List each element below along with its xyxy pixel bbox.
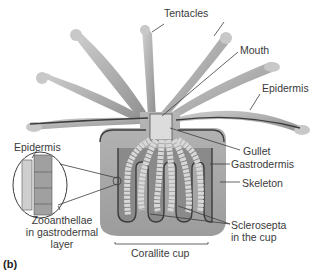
label-epidermis-right: Epidermis [262,82,309,94]
label-sclerosepta-2: in the cup [231,231,277,243]
panel-label: (b) [3,258,17,270]
label-gastrodermis: Gastrodermis [231,158,294,170]
label-sclerosepta-1: Sclerosepta [231,219,286,231]
label-mouth: Mouth [240,44,269,56]
label-zooanthellae-3: layer [22,238,102,250]
label-skeleton: Skeleton [242,177,283,189]
label-zooanthellae-2: in gastrodermal [22,226,102,238]
label-epidermis-left: Epidermis [14,141,61,153]
label-tentacles: Tentacles [164,7,208,19]
label-zooanthellae-1: Zooanthellae [22,214,102,226]
label-corallite-cup: Corallite cup [131,247,189,259]
coral-polyp-diagram: Tentacles Mouth Epidermis Gullet Gastrod… [0,0,321,271]
gullet [150,114,172,140]
label-gullet: Gullet [243,145,270,157]
